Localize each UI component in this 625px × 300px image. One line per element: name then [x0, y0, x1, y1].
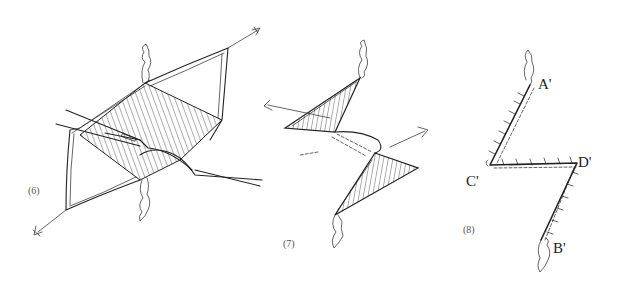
panel-label-8: (8): [463, 224, 475, 235]
panel-label-6: (6): [28, 185, 40, 196]
panel-label-7: (7): [283, 238, 295, 249]
point-label-a-prime: A': [538, 76, 552, 93]
suture-arrow-icon: [390, 127, 428, 147]
panel-7-drawing: [264, 40, 428, 248]
panel-8-drawing: [486, 50, 578, 272]
illustration-canvas: [0, 0, 625, 300]
suture-arrow-icon: [33, 210, 66, 236]
suture-arrow-icon: [228, 27, 260, 48]
point-label-d-prime: D': [578, 154, 592, 171]
point-label-b-prime: B': [553, 240, 566, 257]
panel-6-drawing: [33, 27, 262, 236]
point-label-c-prime: C': [466, 173, 479, 190]
